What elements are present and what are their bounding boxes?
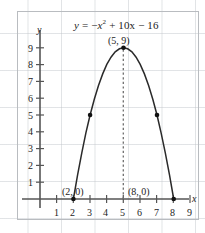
point-3-5 <box>88 113 93 118</box>
y-tick-label-5: 5 <box>28 111 33 121</box>
point-vertex <box>121 46 126 51</box>
root-left-label: (2, 0) <box>62 187 84 197</box>
y-tick-label-8: 8 <box>28 60 33 70</box>
point-root-left <box>71 197 76 202</box>
y-tick-label-1: 1 <box>28 178 33 188</box>
x-tick-label-4: 4 <box>103 208 108 218</box>
equation-lhs: y <box>74 19 79 31</box>
y-axis-label: y <box>37 25 41 35</box>
vertex-label: (5, 9) <box>108 36 130 46</box>
point-root-right <box>171 197 176 202</box>
equation-term1-exponent: 2 <box>103 18 107 26</box>
y-tick-label-9: 9 <box>28 44 33 54</box>
x-tick-label-7: 7 <box>154 208 159 218</box>
x-tick-label-8: 8 <box>170 208 175 218</box>
y-tick-label-4: 4 <box>28 127 33 137</box>
x-axis-label: x <box>192 194 196 204</box>
equation-term3: − 16 <box>138 19 158 31</box>
root-right-label: (8, 0) <box>128 187 150 197</box>
point-7-5 <box>155 113 160 118</box>
x-tick-label-3: 3 <box>87 208 92 218</box>
x-tick-label-9: 9 <box>187 208 192 218</box>
y-tick-label-2: 2 <box>28 161 33 171</box>
x-tick-label-1: 1 <box>54 208 59 218</box>
y-tick-label-7: 7 <box>28 77 33 87</box>
equation-label: y=−x2+ 10x− 16 <box>74 19 159 31</box>
x-tick-label-5: 5 <box>120 208 125 218</box>
x-tick-label-2: 2 <box>70 208 75 218</box>
y-tick-label-3: 3 <box>28 144 33 154</box>
y-tick-label-6: 6 <box>28 94 33 104</box>
equation-equals: = <box>82 19 88 31</box>
equation-term2: + 10x <box>109 19 135 31</box>
x-tick-label-6: 6 <box>137 208 142 218</box>
